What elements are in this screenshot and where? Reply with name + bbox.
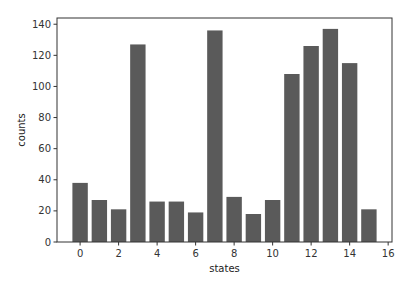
bar-state-13 [323,29,338,242]
x-tick-label: 6 [192,248,198,259]
bar-state-12 [303,46,318,242]
y-axis-label: counts [16,113,27,146]
bar-state-3 [130,44,145,242]
axes-frame [57,18,392,242]
x-tick-label: 2 [115,248,121,259]
x-tick-label: 16 [382,248,395,259]
bar-state-9 [246,214,261,242]
bar-state-0 [72,183,87,242]
x-tick-label: 0 [77,248,83,259]
bar-state-7 [207,30,222,242]
bar-state-2 [111,209,126,242]
bar-state-5 [169,202,184,242]
x-axis-label: states [209,263,240,274]
y-tick-label: 0 [45,237,51,248]
x-axis-ticks: 0246810121416 [77,242,395,259]
bars-group [72,29,376,242]
x-tick-label: 4 [154,248,160,259]
x-tick-label: 14 [343,248,356,259]
bar-state-1 [92,200,107,242]
y-tick-label: 80 [38,112,51,123]
bar-state-15 [361,209,376,242]
x-tick-label: 12 [305,248,318,259]
y-tick-label: 20 [38,205,51,216]
y-tick-label: 100 [32,81,51,92]
bar-state-10 [265,200,280,242]
y-tick-label: 120 [32,50,51,61]
bar-state-14 [342,63,357,242]
y-tick-label: 140 [32,19,51,30]
x-tick-label: 8 [231,248,237,259]
bar-chart: 020406080100120140 0246810121416 states … [0,0,409,288]
y-axis-ticks: 020406080100120140 [32,19,57,248]
y-tick-label: 40 [38,174,51,185]
bar-state-4 [149,202,164,242]
bar-state-11 [284,74,299,242]
bar-state-8 [226,197,241,242]
bar-state-6 [188,212,203,242]
y-tick-label: 60 [38,143,51,154]
x-tick-label: 10 [266,248,279,259]
